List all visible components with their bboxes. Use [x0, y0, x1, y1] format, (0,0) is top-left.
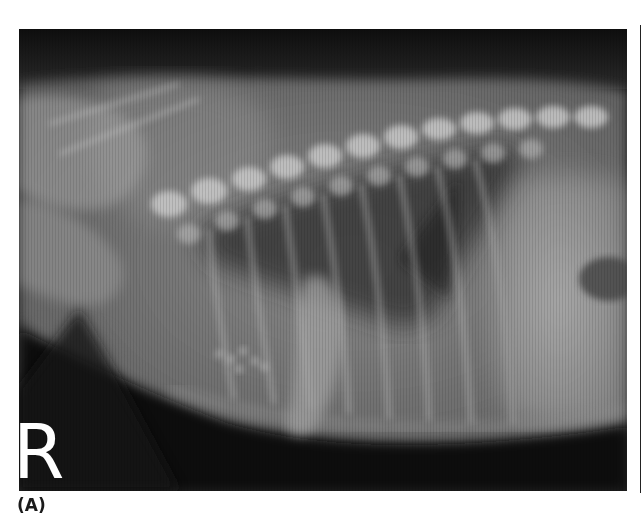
panel-label: (A)	[17, 495, 46, 515]
radiograph-panel: R	[19, 29, 627, 491]
side-marker-label: R	[19, 415, 64, 489]
page-edge-rule	[640, 25, 641, 493]
radiograph-image	[19, 29, 627, 491]
